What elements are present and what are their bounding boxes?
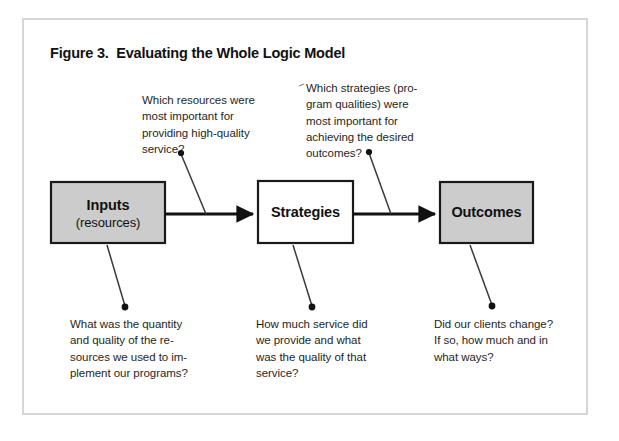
leader-dot-service bbox=[309, 304, 316, 311]
note-strategies-question: Which strategies (pro- gram qualities) w… bbox=[306, 80, 446, 162]
leader-inputs-question bbox=[107, 245, 125, 306]
leader-strategies-question bbox=[369, 153, 391, 214]
note-resources-question: Which resources were most important for … bbox=[142, 92, 292, 157]
leader-clients-question bbox=[470, 245, 492, 305]
note-clients-question: Did our clients change? If so, how much … bbox=[434, 316, 584, 365]
leader-dot-clients bbox=[489, 303, 496, 310]
leader-resources-question bbox=[181, 154, 206, 214]
figure-container: Figure 3. Evaluating the Whole Logic Mod… bbox=[0, 0, 619, 441]
note-inputs-question: What was the quantity and quality of the… bbox=[70, 316, 230, 381]
leader-tick-strategies-note bbox=[299, 84, 304, 86]
box-strategies bbox=[258, 181, 353, 243]
note-service-question: How much service did we provide and what… bbox=[256, 316, 406, 381]
leader-service-question bbox=[293, 245, 312, 306]
box-outcomes bbox=[440, 182, 533, 243]
box-inputs bbox=[51, 182, 165, 243]
leader-dot-inputs bbox=[122, 304, 129, 311]
